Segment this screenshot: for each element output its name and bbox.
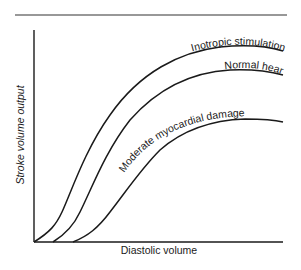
curve-normal-heart: [53, 70, 283, 242]
y-axis-label: Stroke volume output: [14, 84, 26, 184]
label-moderate-myocardial-damage: Moderate myocardial damage: [116, 106, 245, 174]
x-axis-label: Diastolic volume: [121, 244, 198, 256]
frank-starling-diagram: Inotropic stimulation Normal heart Moder…: [0, 0, 301, 270]
label-inotropic-stimulation: Inotropic stimulation: [189, 35, 287, 54]
curve-moderate-myocardial-damage: [73, 119, 283, 242]
curve-inotropic-stimulation: [34, 46, 283, 242]
